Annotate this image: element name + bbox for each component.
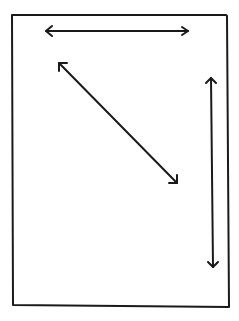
horizontal-double-arrow-icon bbox=[46, 26, 188, 36]
vertical-double-arrow-icon bbox=[206, 78, 218, 267]
page-frame bbox=[12, 15, 229, 307]
diagonal-double-arrow-icon bbox=[59, 63, 177, 183]
diagram-canvas bbox=[0, 0, 239, 321]
